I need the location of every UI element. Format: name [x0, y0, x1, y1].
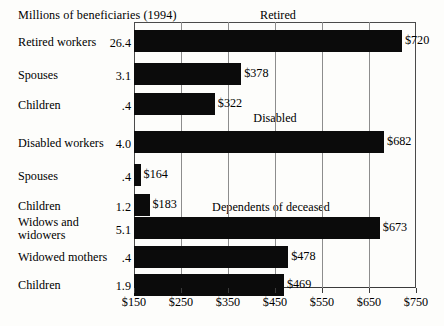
bar-label-disabled-workers: $682 [384, 134, 411, 149]
bar-label-retired-children: $322 [215, 96, 242, 111]
category-label-retired-workers: Retired workers [18, 36, 96, 49]
category-label-retired-children: Children [18, 99, 61, 112]
category-label-widows-and-widowers: Widows and widowers [18, 216, 79, 241]
bar-label-widows-and-widowers: $673 [380, 220, 407, 235]
category-label-disabled-spouses: Spouses [18, 170, 58, 183]
category-value-retired-workers: 26.4 [110, 36, 131, 51]
x-tick-label: $250 [169, 295, 193, 310]
x-tick-mark [416, 288, 417, 293]
category-label-retired-spouses: Spouses [18, 69, 58, 82]
category-value-retired-spouses: 3.1 [116, 69, 131, 84]
gridline-650 [369, 22, 370, 288]
category-value-widowed-mothers: .4 [122, 251, 131, 266]
category-value-disabled-children: 1.2 [116, 200, 131, 215]
category-label-deceased-children: Children [18, 279, 61, 292]
bar-widowed-mothers [134, 246, 288, 268]
x-tick-mark [275, 288, 276, 293]
bar-disabled-workers [134, 131, 384, 153]
category-label-disabled-children: Children [18, 200, 61, 213]
x-tick-label: $450 [263, 295, 287, 310]
bar-label-retired-spouses: $378 [241, 66, 268, 81]
x-tick-mark [181, 288, 182, 293]
bar-retired-workers [134, 30, 402, 52]
bar-label-widowed-mothers: $478 [288, 249, 315, 264]
category-value-retired-children: .4 [122, 99, 131, 114]
gridline-550 [322, 22, 323, 288]
bar-label-deceased-children: $469 [284, 277, 311, 292]
category-value-deceased-children: 1.9 [116, 279, 131, 294]
bar-chart-figure: Millions of beneficiaries (1994) Retired… [0, 0, 444, 326]
category-value-widows-and-widowers: 5.1 [116, 223, 131, 238]
x-tick-mark [134, 288, 135, 293]
x-tick-label: $650 [357, 295, 381, 310]
bar-label-retired-workers: $720 [402, 33, 429, 48]
x-tick-label: $750 [404, 295, 428, 310]
category-value-disabled-spouses: .4 [122, 170, 131, 185]
units-caption: Millions of beneficiaries (1994) [18, 8, 177, 23]
plot-frame-right [415, 22, 416, 288]
bar-label-disabled-spouses: $164 [141, 167, 168, 182]
x-tick-mark [369, 288, 370, 293]
category-label-disabled-workers: Disabled workers [18, 137, 104, 150]
x-tick-mark [322, 288, 323, 293]
bar-deceased-children [134, 274, 284, 296]
bar-disabled-children [134, 194, 150, 216]
x-tick-label: $350 [216, 295, 240, 310]
category-label-widowed-mothers: Widowed mothers [18, 251, 107, 264]
x-tick-label: $550 [310, 295, 334, 310]
bar-label-disabled-children: $183 [150, 197, 177, 212]
bar-widows-and-widowers [134, 217, 380, 239]
category-value-disabled-workers: 4.0 [116, 137, 131, 152]
bar-disabled-spouses [134, 164, 141, 186]
section-title-retired: Retired [260, 8, 296, 23]
plot-area: $720 $378 $322 $682 $164 $183 $673 [134, 22, 416, 288]
bar-retired-children [134, 93, 215, 115]
bar-retired-spouses [134, 63, 241, 85]
x-tick-label: $150 [122, 295, 146, 310]
x-tick-mark [228, 288, 229, 293]
